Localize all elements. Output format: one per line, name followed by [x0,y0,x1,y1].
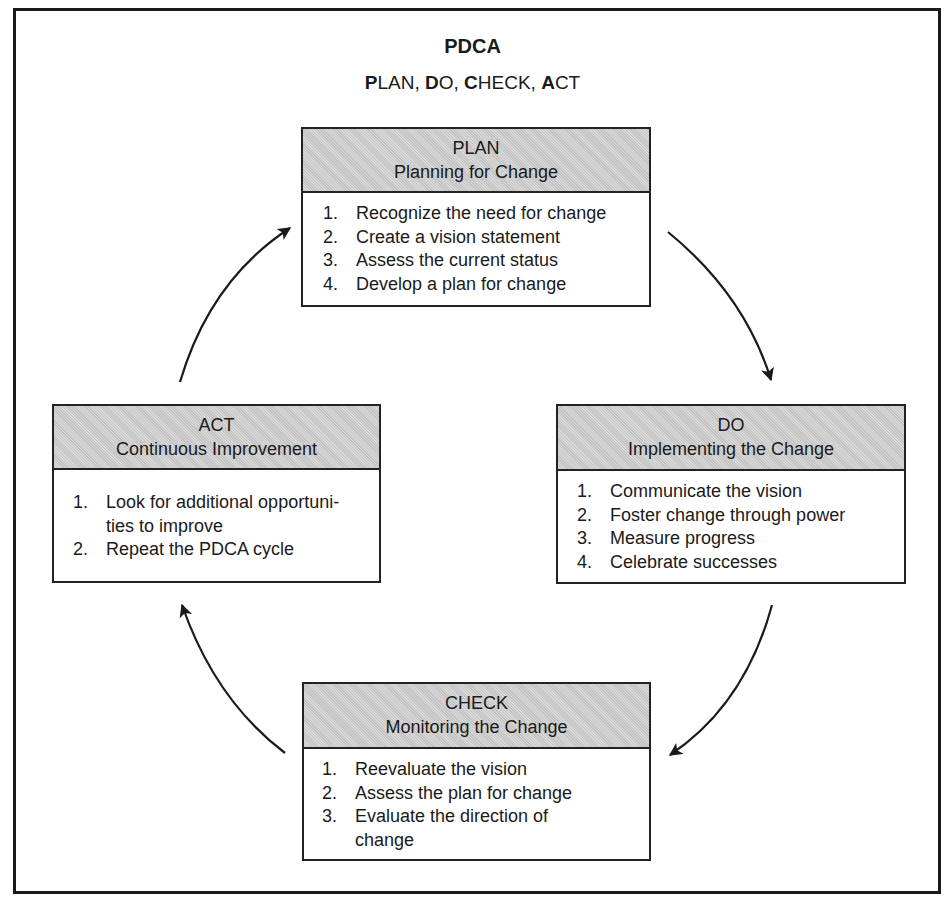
arrow-do-to-check-icon [670,605,772,755]
arrow-check-to-act-icon [182,605,285,753]
arrow-act-to-plan-icon [180,228,290,382]
cycle-arrows [0,0,945,900]
arrow-plan-to-do-icon [668,232,771,380]
